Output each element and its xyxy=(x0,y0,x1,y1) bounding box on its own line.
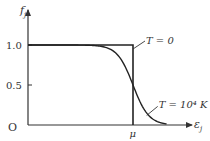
y-tick-label: 1.0 xyxy=(6,40,22,51)
annotation-t1e4-label: T = 10⁴ K xyxy=(159,99,208,110)
series-t1e4-curve xyxy=(28,45,167,124)
fermi-dirac-chart: fj εj O 1.00.5 μ T = 0 T = 10⁴ K xyxy=(0,0,210,141)
annotation-t1e4-leader xyxy=(147,106,158,115)
x-axis-label: εj xyxy=(194,118,203,133)
series-t0-step xyxy=(28,45,133,125)
y-tick-label: 0.5 xyxy=(6,80,22,91)
y-axis-label: fj xyxy=(19,4,27,19)
x-tick-label: μ xyxy=(130,128,137,139)
annotation-t0-label: T = 0 xyxy=(146,35,174,46)
origin-label: O xyxy=(8,121,17,134)
annotation-t0-leader xyxy=(133,41,145,49)
